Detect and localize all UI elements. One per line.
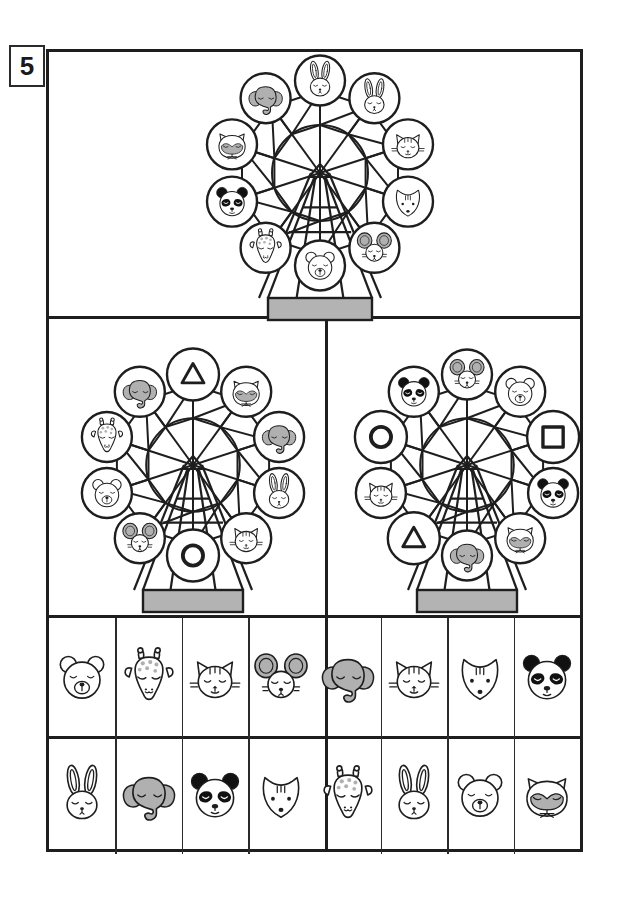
right-puzzle-ferris-wheel	[332, 325, 602, 615]
cabin-raccoon	[495, 513, 545, 563]
sticker-cell[interactable]: rabbit	[381, 736, 447, 854]
animal-giraffe	[317, 764, 379, 826]
cabin-bear	[495, 367, 545, 417]
cabin-elephant	[115, 367, 165, 417]
animal-cat	[184, 646, 246, 708]
animal-elephant	[317, 646, 379, 708]
exercise-number: 5	[20, 53, 34, 79]
cabin-panda	[389, 367, 439, 417]
cabin-circle	[355, 411, 407, 463]
cabin-cat	[221, 513, 271, 563]
animal-rabbit	[383, 764, 445, 826]
cabin-square	[527, 411, 579, 463]
cabin-rabbit	[349, 73, 399, 123]
sticker-cell[interactable]: mouse	[248, 618, 314, 736]
animal-cat	[383, 646, 445, 708]
animal-elephant	[118, 764, 180, 826]
cabin-raccoon	[207, 119, 257, 169]
animal-bear	[449, 764, 511, 826]
cabin-circle	[167, 530, 219, 582]
sticker-cell[interactable]: giraffe	[315, 736, 381, 854]
exercise-number-box: 5	[9, 45, 45, 87]
sticker-cell[interactable]: giraffe	[115, 618, 181, 736]
cabin-triangle	[167, 349, 219, 401]
cabin-rabbit	[254, 468, 304, 518]
sticker-cell[interactable]: panda	[514, 618, 580, 736]
left-puzzle-ferris-wheel	[58, 325, 328, 615]
cabin-giraffe	[82, 412, 132, 462]
sticker-cell[interactable]: elephant	[115, 736, 181, 854]
sticker-cell[interactable]: bear	[447, 736, 513, 854]
cabin-giraffe	[241, 223, 291, 273]
cabin-elephant	[442, 531, 492, 581]
animal-panda	[516, 646, 578, 708]
cabin-bear	[295, 241, 345, 291]
cabin-elephant	[254, 412, 304, 462]
animal-raccoon	[516, 764, 578, 826]
sticker-cell[interactable]: cat	[182, 618, 248, 736]
sticker-cell[interactable]: bear	[49, 618, 115, 736]
cabin-cat	[356, 468, 406, 518]
cabin-raccoon	[221, 367, 271, 417]
sticker-cell[interactable]: panda	[182, 736, 248, 854]
cabin-mouse	[115, 513, 165, 563]
sticker-cell[interactable]: raccoon	[514, 736, 580, 854]
cabin-panda	[528, 468, 578, 518]
cabin-triangle	[388, 512, 440, 564]
cabin-fox	[383, 177, 433, 227]
animal-bear	[51, 646, 113, 708]
sticker-cell[interactable]: cat	[381, 618, 447, 736]
sticker-cell[interactable]: rabbit	[49, 736, 115, 854]
sticker-cell[interactable]: fox	[248, 736, 314, 854]
cabin-elephant	[241, 73, 291, 123]
animal-fox	[250, 764, 312, 826]
cabin-mouse	[442, 350, 492, 400]
cabin-cat	[383, 119, 433, 169]
cabin-rabbit	[295, 56, 345, 106]
reference-ferris-wheel	[150, 50, 490, 320]
sticker-cell[interactable]: elephant	[315, 618, 381, 736]
worksheet-page: 5 beargiraffecatmouseelephantcatfoxpanda…	[0, 0, 633, 902]
cabin-panda	[207, 177, 257, 227]
cabin-bear	[82, 468, 132, 518]
sticker-cell[interactable]: fox	[447, 618, 513, 736]
cabin-mouse	[349, 223, 399, 273]
animal-giraffe	[118, 646, 180, 708]
animal-rabbit	[51, 764, 113, 826]
animal-mouse	[250, 646, 312, 708]
animal-panda	[184, 764, 246, 826]
animal-fox	[449, 646, 511, 708]
